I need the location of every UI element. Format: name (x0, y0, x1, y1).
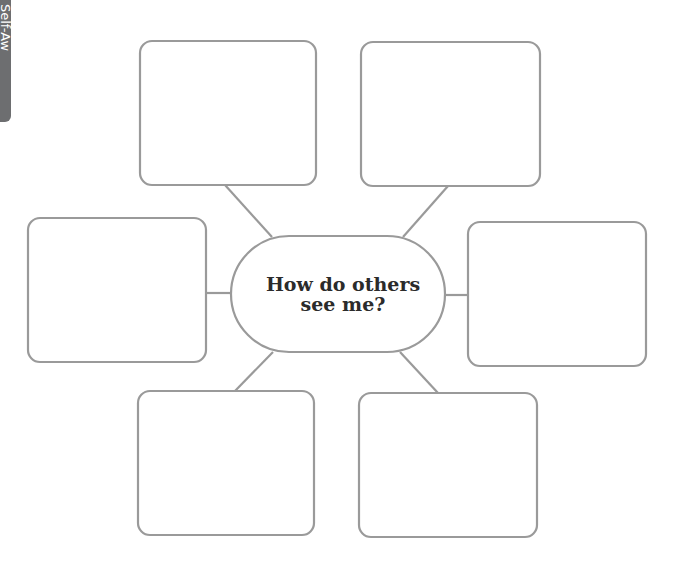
box-bottom-right[interactable] (359, 393, 537, 537)
center-question-line1: How do others (266, 274, 420, 294)
connector-top-left (225, 185, 272, 237)
box-left[interactable] (28, 218, 206, 362)
center-question-line2: see me? (266, 294, 420, 314)
center-question: How do others see me? (231, 236, 455, 352)
box-right[interactable] (468, 222, 646, 366)
connector-bottom-left (235, 352, 273, 391)
box-top-right[interactable] (361, 42, 540, 186)
connector-top-right (403, 186, 448, 237)
box-bottom-left[interactable] (138, 391, 314, 535)
connector-bottom-right (400, 352, 438, 393)
box-top-left[interactable] (140, 41, 316, 185)
